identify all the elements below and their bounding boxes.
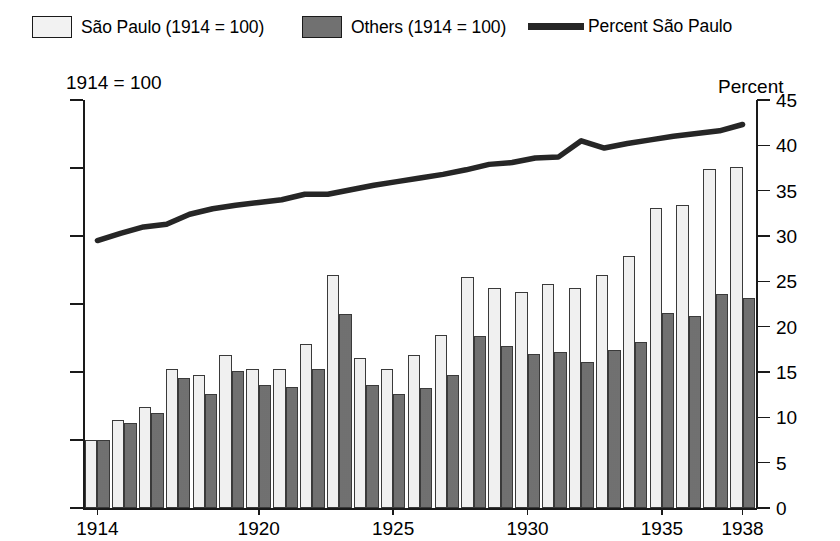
- y-tick-label-right: 40: [776, 136, 797, 155]
- y-tick-right: [757, 462, 770, 464]
- x-tick-label: 1920: [238, 518, 280, 540]
- y-tick-right: [757, 371, 770, 373]
- right-axis-note: Percent: [718, 76, 783, 98]
- y-tick-left: [70, 371, 83, 373]
- legend-item-sao-paulo: São Paulo (1914 = 100): [32, 16, 264, 38]
- y-tick-label-right: 15: [776, 363, 797, 382]
- legend-swatch-others-icon: [302, 16, 342, 38]
- x-axis: [83, 508, 757, 510]
- y-tick-label-right: 25: [776, 272, 797, 291]
- legend-item-percent: Percent São Paulo: [528, 16, 732, 37]
- x-tick: [742, 508, 744, 515]
- y-tick-right: [757, 417, 770, 419]
- legend-label-sao-paulo: São Paulo (1914 = 100): [81, 17, 264, 38]
- y-tick-right: [757, 145, 770, 147]
- legend-swatch-sao-paulo-icon: [32, 16, 72, 38]
- x-tick-label: 1938: [721, 518, 763, 540]
- y-tick-left: [70, 303, 83, 305]
- y-tick-right: [757, 99, 770, 101]
- y-tick-right: [757, 235, 770, 237]
- legend-label-percent: Percent São Paulo: [588, 16, 732, 37]
- y-tick-label-right: 0: [776, 499, 787, 518]
- y-tick-left: [70, 235, 83, 237]
- y-tick-left: [70, 507, 83, 509]
- y-tick-label-right: 45: [776, 91, 797, 110]
- left-axis-note: 1914 = 100: [66, 72, 162, 94]
- y-tick-right: [757, 281, 770, 283]
- y-tick-label-right: 30: [776, 227, 797, 246]
- y-tick-label-right: 20: [776, 318, 797, 337]
- chart-legend: São Paulo (1914 = 100) Others (1914 = 10…: [0, 0, 840, 58]
- y-tick-right: [757, 507, 770, 509]
- legend-line-percent-icon: [528, 23, 584, 30]
- y-tick-left: [70, 439, 83, 441]
- x-tick-label: 1914: [76, 518, 118, 540]
- x-tick: [527, 508, 529, 515]
- legend-item-others: Others (1914 = 100): [302, 16, 506, 38]
- x-tick: [661, 508, 663, 515]
- chart-root: São Paulo (1914 = 100) Others (1914 = 10…: [0, 0, 840, 541]
- x-tick: [392, 508, 394, 515]
- plot-area: 0100200300400500600 051015202530354045 1…: [84, 100, 756, 508]
- x-tick-label: 1935: [641, 518, 683, 540]
- percent-line-series: [84, 100, 756, 508]
- x-tick: [258, 508, 260, 515]
- y-tick-right: [757, 326, 770, 328]
- y-axis-right: [756, 100, 758, 508]
- y-tick-right: [757, 190, 770, 192]
- x-tick-label: 1925: [372, 518, 414, 540]
- y-tick-label-right: 35: [776, 182, 797, 201]
- y-tick-left: [70, 99, 83, 101]
- x-tick: [97, 508, 99, 515]
- y-tick-label-right: 5: [776, 454, 787, 473]
- x-tick-label: 1930: [506, 518, 548, 540]
- y-tick-left: [70, 167, 83, 169]
- y-tick-label-right: 10: [776, 408, 797, 427]
- legend-label-others: Others (1914 = 100): [351, 17, 506, 38]
